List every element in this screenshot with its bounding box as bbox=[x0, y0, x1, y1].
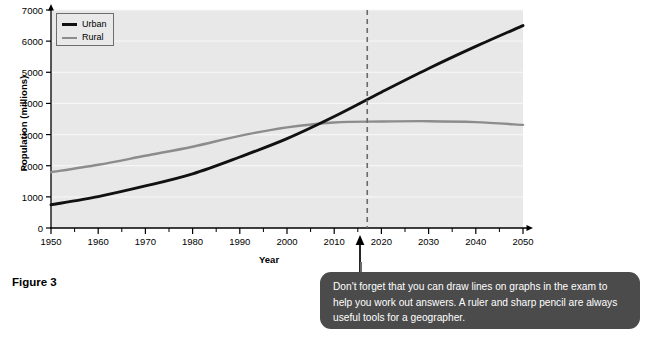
x-tick-label: 1960 bbox=[88, 236, 109, 247]
x-tick-label: 2030 bbox=[418, 236, 439, 247]
y-axis-ticks bbox=[46, 10, 51, 228]
chart-legend: Urban Rural bbox=[56, 13, 114, 46]
y-tick-label: 2000 bbox=[0, 160, 43, 171]
y-tick-label: 4000 bbox=[0, 98, 43, 109]
x-axis-arrow-icon bbox=[527, 225, 534, 231]
x-tick-label: 2020 bbox=[371, 236, 392, 247]
x-axis-title: Year bbox=[259, 254, 279, 265]
x-tick-label: 2050 bbox=[512, 236, 533, 247]
x-tick-label: 2010 bbox=[324, 236, 345, 247]
legend-item-urban: Urban bbox=[62, 18, 108, 31]
legend-label-urban: Urban bbox=[82, 20, 107, 29]
callout-box: Don't forget that you can draw lines on … bbox=[320, 272, 640, 329]
legend-swatch-urban-icon bbox=[62, 23, 77, 26]
x-tick-label: 1990 bbox=[229, 236, 250, 247]
y-tick-label: 3000 bbox=[0, 129, 43, 140]
x-tick-label: 2000 bbox=[276, 236, 297, 247]
callout-text: Don't forget that you can draw lines on … bbox=[333, 279, 627, 326]
legend-label-rural: Rural bbox=[82, 33, 104, 42]
y-tick-label: 7000 bbox=[0, 5, 43, 16]
y-tick-label: 6000 bbox=[0, 36, 43, 47]
x-tick-label: 1950 bbox=[40, 236, 61, 247]
x-tick-label: 1980 bbox=[182, 236, 203, 247]
figure-caption: Figure 3 bbox=[12, 276, 57, 288]
figure-container: Population (millions) Year 0100020003000… bbox=[0, 0, 647, 337]
plot-background bbox=[51, 10, 523, 228]
y-tick-label: 5000 bbox=[0, 67, 43, 78]
y-tick-label: 1000 bbox=[0, 191, 43, 202]
x-tick-label: 2040 bbox=[465, 236, 486, 247]
x-tick-label: 1970 bbox=[135, 236, 156, 247]
legend-swatch-rural-icon bbox=[62, 37, 77, 39]
y-tick-label: 0 bbox=[0, 223, 43, 234]
legend-item-rural: Rural bbox=[62, 31, 108, 44]
